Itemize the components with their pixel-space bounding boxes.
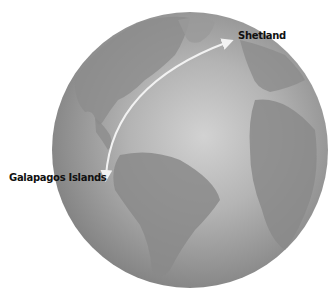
globe-map bbox=[0, 0, 334, 294]
galapagos-islands-label: Galapagos Islands bbox=[9, 172, 106, 183]
shetland-label: Shetland bbox=[238, 30, 286, 41]
globe bbox=[52, 12, 328, 288]
